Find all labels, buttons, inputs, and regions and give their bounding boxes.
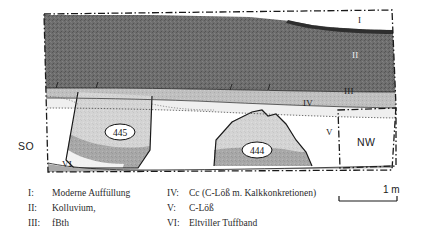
legend-text-I: Moderne Auffüllung <box>52 186 130 201</box>
cross-section-svg: I II III IV V VI SO NW 445 444 <box>0 0 424 185</box>
legend-text-II: Kolluvium, <box>52 201 96 216</box>
legend-text-VI: Eltviller Tuffband <box>189 216 257 231</box>
cross-section-figure: I II III IV V VI SO NW 445 444 1 m <box>0 0 424 238</box>
legend-item-III: III: fBth <box>28 216 168 231</box>
unit-label-III: III <box>344 86 354 96</box>
feature-444-number: 444 <box>250 146 265 156</box>
unit-label-I: I <box>358 15 361 25</box>
legend-column-left: I: Moderne Auffüllung II: Kolluvium, III… <box>28 186 168 231</box>
legend-key-III: III: <box>28 216 52 231</box>
legend-key-V: V: <box>167 201 189 216</box>
legend-item-IV: IV: Cc (C-Löß m. Kalkkonkretionen) <box>167 186 367 201</box>
legend: I: Moderne Auffüllung II: Kolluvium, III… <box>0 186 424 238</box>
unit-label-V: V <box>326 127 333 137</box>
direction-label-nw: NW <box>357 136 375 148</box>
legend-item-VI: VI: Eltviller Tuffband <box>167 216 367 231</box>
legend-key-VI: VI: <box>167 216 189 231</box>
feature-445-marker: 445 <box>105 124 135 140</box>
unit-label-II: II <box>352 50 359 60</box>
legend-text-V: C-Löß <box>189 201 214 216</box>
legend-item-I: I: Moderne Auffüllung <box>28 186 168 201</box>
legend-column-right: IV: Cc (C-Löß m. Kalkkonkretionen) V: C-… <box>167 186 367 231</box>
direction-label-so: SO <box>18 140 34 152</box>
legend-key-II: II: <box>28 201 52 216</box>
unit-label-IV: IV <box>303 98 313 108</box>
legend-text-III: fBth <box>52 216 69 231</box>
legend-text-IV: Cc (C-Löß m. Kalkkonkretionen) <box>189 186 316 201</box>
feature-444-marker: 444 <box>242 142 272 158</box>
legend-item-II: II: Kolluvium, <box>28 201 168 216</box>
legend-item-V: V: C-Löß <box>167 201 367 216</box>
legend-key-IV: IV: <box>167 186 189 201</box>
unit-label-VI: VI <box>62 159 72 169</box>
cross-section-drawing: I II III IV V VI SO NW 445 444 <box>0 0 424 185</box>
feature-445-number: 445 <box>113 128 128 138</box>
legend-key-I: I: <box>28 186 52 201</box>
